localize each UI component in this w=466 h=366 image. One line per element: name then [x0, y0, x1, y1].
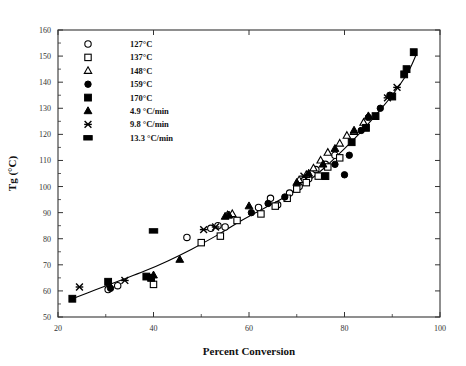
marker-filled-circle — [332, 161, 338, 167]
y-tick-label: 80 — [43, 235, 51, 244]
marker-open-square — [272, 203, 278, 209]
marker-open-triangle — [343, 132, 350, 139]
y-tick-label: 100 — [39, 183, 51, 192]
legend-label: 137°C — [130, 52, 152, 62]
marker-filled-circle — [85, 81, 91, 87]
marker-open-square — [217, 233, 223, 239]
marker-filled-square — [410, 49, 417, 56]
y-tick-label: 70 — [43, 261, 51, 270]
marker-filled-circle — [282, 194, 288, 200]
x-tick-label: 60 — [245, 324, 253, 333]
marker-cross — [76, 284, 84, 291]
marker-open-square — [337, 155, 343, 161]
marker-filled-circle — [107, 285, 113, 291]
marker-filled-triangle — [350, 126, 358, 133]
marker-filled-square — [85, 94, 92, 101]
scatter-plot-svg: 5060708090100110120130140150160204060801… — [0, 0, 466, 366]
series-8 — [149, 229, 157, 233]
legend-label: 148°C — [130, 66, 152, 76]
series-1 — [105, 152, 338, 293]
legend-item-5[interactable]: 170°C — [85, 93, 153, 103]
marker-open-circle — [222, 224, 228, 230]
marker-filled-rect — [84, 136, 92, 140]
series-3 — [224, 119, 367, 218]
marker-open-square — [198, 239, 204, 245]
marker-open-circle — [208, 225, 214, 231]
legend-item-1[interactable]: 127°C — [85, 39, 152, 49]
legend-item-3[interactable]: 148°C — [84, 66, 152, 76]
marker-filled-square — [322, 173, 329, 180]
marker-open-square — [150, 281, 156, 287]
y-axis-title: Tg (°C) — [6, 156, 19, 192]
marker-open-square — [85, 54, 91, 60]
marker-open-circle — [184, 234, 190, 240]
marker-open-square — [294, 186, 300, 192]
marker-filled-circle — [377, 105, 383, 111]
y-tick-label: 130 — [39, 104, 51, 113]
marker-open-square — [303, 179, 309, 185]
marker-cross — [300, 173, 308, 180]
marker-open-triangle — [324, 149, 331, 156]
marker-open-circle — [85, 41, 91, 47]
marker-open-square — [234, 217, 240, 223]
chart-figure: 5060708090100110120130140150160204060801… — [0, 0, 466, 366]
marker-open-circle — [114, 282, 120, 288]
marker-filled-circle — [248, 209, 254, 215]
marker-cross — [200, 226, 208, 233]
legend-item-7[interactable]: 9.8 °C/min — [84, 119, 169, 129]
trend-line — [72, 55, 416, 299]
series-2 — [150, 155, 343, 288]
marker-filled-triangle — [84, 107, 92, 114]
legend-item-2[interactable]: 137°C — [85, 52, 152, 62]
legend-item-4[interactable]: 159°C — [85, 79, 152, 89]
marker-open-triangle — [84, 67, 91, 74]
marker-filled-triangle — [245, 202, 253, 209]
marker-open-square — [258, 211, 264, 217]
marker-filled-circle — [346, 152, 352, 158]
marker-open-square — [315, 173, 321, 179]
marker-open-circle — [255, 204, 261, 210]
marker-filled-rect — [149, 229, 157, 233]
legend-label: 127°C — [130, 39, 152, 49]
y-tick-label: 140 — [39, 78, 51, 87]
series-7 — [76, 84, 401, 290]
marker-filled-square — [403, 66, 410, 73]
legend-label: 9.8 °C/min — [130, 119, 169, 129]
y-tick-label: 160 — [39, 26, 51, 35]
legend-label: 13.3 °C/min — [130, 133, 173, 143]
series-5 — [69, 49, 417, 302]
legend-item-8[interactable]: 13.3 °C/min — [84, 133, 174, 143]
x-tick-label: 80 — [341, 324, 349, 333]
marker-cross — [393, 84, 401, 91]
marker-open-triangle — [336, 139, 343, 146]
legend-item-6[interactable]: 4.9 °C/min — [84, 106, 169, 116]
y-tick-label: 50 — [43, 313, 51, 322]
y-tick-label: 150 — [39, 52, 51, 61]
x-tick-label: 40 — [150, 324, 158, 333]
y-tick-label: 60 — [43, 287, 51, 296]
y-tick-label: 90 — [43, 209, 51, 218]
plot-frame — [58, 30, 440, 317]
marker-cross — [84, 121, 92, 128]
marker-filled-square — [105, 278, 112, 285]
x-axis-title: Percent Conversion — [203, 345, 295, 357]
marker-filled-square — [389, 93, 396, 100]
marker-filled-circle — [341, 172, 347, 178]
marker-filled-square — [69, 295, 76, 302]
marker-filled-circle — [265, 200, 271, 206]
marker-filled-square — [348, 139, 355, 146]
marker-filled-square — [363, 124, 370, 131]
legend: 127°C137°C148°C159°C170°C4.9 °C/min9.8 °… — [84, 39, 174, 143]
legend-label: 159°C — [130, 79, 152, 89]
legend-label: 170°C — [130, 93, 152, 103]
legend-label: 4.9 °C/min — [130, 106, 169, 116]
y-tick-label: 110 — [39, 156, 51, 165]
x-tick-label: 100 — [434, 324, 446, 333]
y-tick-label: 120 — [39, 130, 51, 139]
marker-filled-square — [372, 113, 379, 120]
x-tick-label: 20 — [54, 324, 62, 333]
